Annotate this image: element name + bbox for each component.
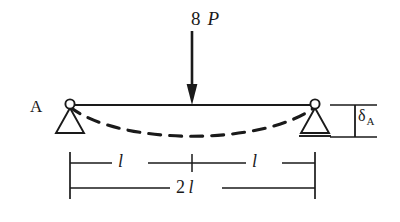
beam-diagram-figure: 8P A δA l l 2 l (0, 0, 400, 222)
dim-label-right-span: l (252, 152, 257, 170)
dim-label-left-span: l (118, 152, 123, 170)
beam-diagram-canvas (0, 0, 400, 222)
dim-label-total-span: 2 l (176, 178, 194, 196)
roller-hinge-circle-icon (310, 99, 319, 108)
dim-right-span-sym: l (252, 151, 257, 171)
pin-hinge-circle-icon (65, 99, 74, 108)
dim-total-span-num: 2 (176, 177, 185, 197)
load-arrow (187, 31, 198, 105)
dim-left-span-sym: l (118, 151, 123, 171)
deflection-label: δA (358, 108, 375, 127)
deflection-symbol: δ (358, 107, 366, 124)
load-magnitude: 8 (191, 8, 201, 29)
deflection-subscript: A (367, 115, 375, 127)
dim-total-span-sym: l (189, 177, 194, 197)
support-label-a: A (30, 98, 42, 115)
roller-support-triangle-icon (301, 108, 329, 133)
load-symbol: P (208, 8, 220, 29)
load-label: 8P (191, 9, 219, 28)
load-arrow-head (187, 84, 198, 105)
deflected-shape-curve (70, 107, 315, 136)
